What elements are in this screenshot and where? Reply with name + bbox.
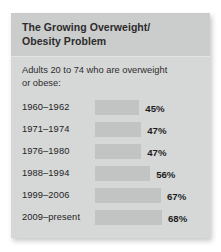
bar-chart-rows: 1960–196245%1971–197447%1976–198047%1988… [11, 98, 210, 230]
row-value-label: 47% [147, 125, 166, 136]
row-value-label: 67% [167, 191, 186, 202]
bar-track: 56% [95, 166, 210, 181]
row-period-label: 1976–1980 [22, 146, 69, 156]
bar [95, 210, 162, 225]
bar-track: 45% [95, 100, 210, 115]
bar-track: 47% [95, 144, 210, 159]
row-value-label: 68% [168, 213, 187, 224]
bar [95, 122, 141, 137]
bar-track: 68% [95, 210, 210, 225]
table-row: 2009–present68% [11, 208, 210, 230]
row-period-label: 1971–1974 [22, 124, 69, 134]
row-value-label: 56% [156, 169, 175, 180]
row-period-label: 1999–2006 [22, 190, 69, 200]
bar [95, 166, 150, 181]
table-row: 1971–197447% [11, 120, 210, 142]
bar [95, 188, 161, 203]
bar [95, 100, 139, 115]
row-period-label: 1988–1994 [22, 168, 69, 178]
bar [95, 144, 141, 159]
row-value-label: 47% [147, 147, 166, 158]
bar-track: 67% [95, 188, 210, 203]
table-row: 1999–200667% [11, 186, 210, 208]
table-row: 1988–199456% [11, 164, 210, 186]
card-header: The Growing Overweight/ Obesity Problem [11, 13, 210, 57]
row-period-label: 1960–1962 [22, 102, 69, 112]
table-row: 1960–196245% [11, 98, 210, 120]
infographic-card: The Growing Overweight/ Obesity Problem … [11, 13, 210, 238]
card-body: Adults 20 to 74 who are overweight or ob… [11, 58, 210, 238]
page-title: The Growing Overweight/ Obesity Problem [22, 21, 202, 48]
row-period-label: 2009–present [22, 212, 80, 222]
row-value-label: 45% [145, 103, 164, 114]
card-subtitle: Adults 20 to 74 who are overweight or ob… [22, 64, 202, 89]
bar-track: 47% [95, 122, 210, 137]
table-row: 1976–198047% [11, 142, 210, 164]
